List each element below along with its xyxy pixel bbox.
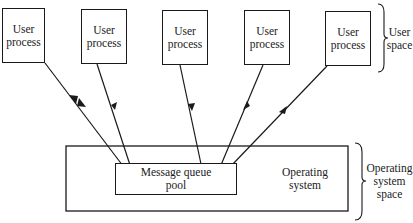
- user-process-label: User: [256, 25, 278, 38]
- os-space-label: Operating system space: [366, 162, 413, 201]
- user-process-label: process: [87, 37, 122, 50]
- user-process-box-5: User process: [325, 11, 371, 66]
- user-process-label: process: [250, 38, 285, 51]
- operating-system-label: Operating system: [270, 166, 340, 192]
- user-process-label: User: [13, 23, 35, 36]
- os-space-brace: [355, 143, 366, 220]
- user-space-line: space: [387, 39, 413, 52]
- user-space-line: User: [389, 26, 411, 39]
- os-space-line: system: [374, 175, 406, 188]
- user-process-label: process: [331, 39, 366, 52]
- user-process-label: User: [174, 25, 196, 38]
- os-label-line: system: [289, 179, 321, 192]
- message-queue-pool-box: Message queue pool: [115, 163, 237, 195]
- user-process-box-3: User process: [162, 10, 208, 65]
- user-process-box-2: User process: [81, 9, 127, 64]
- user-process-label: process: [168, 38, 203, 51]
- user-process-box-1: User process: [2, 8, 45, 63]
- os-label-line: Operating: [282, 166, 328, 179]
- os-space-line: space: [377, 188, 403, 201]
- os-space-line: Operating: [367, 162, 413, 175]
- user-process-label: User: [337, 26, 359, 39]
- message-queue-label: pool: [166, 179, 186, 192]
- user-process-box-4: User process: [244, 10, 290, 65]
- user-space-label: User space: [386, 26, 413, 52]
- user-process-label: process: [6, 36, 41, 49]
- user-process-label: User: [93, 24, 115, 37]
- message-queue-label: Message queue: [141, 166, 212, 179]
